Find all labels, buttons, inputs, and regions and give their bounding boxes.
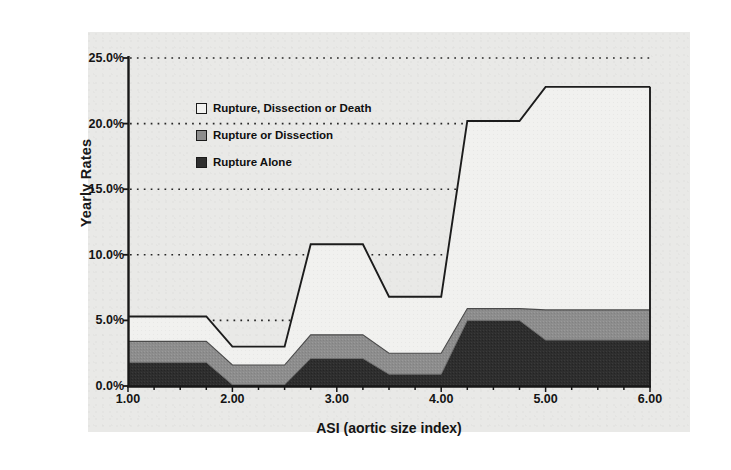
legend-item-rupture-or-dissection[interactable]: Rupture or Dissection (196, 125, 371, 145)
x-tick-label-1: 1.00 (98, 392, 158, 406)
y-tick-label-0: 0.0% (62, 379, 124, 393)
x-tick-label-6: 6.00 (620, 392, 680, 406)
y-tick-label-25: 25.0% (62, 51, 124, 65)
x-tick-label-2: 2.00 (202, 392, 262, 406)
y-tick-label-15: 15.0% (62, 182, 124, 196)
x-tick-label-5: 5.00 (516, 392, 576, 406)
legend-label-rupture-dissection-or-death: Rupture, Dissection or Death (213, 102, 371, 114)
chart-legend: Rupture, Dissection or Death Rupture or … (196, 98, 371, 179)
y-tick-label-10: 10.0% (62, 248, 124, 262)
y-tick-label-20: 20.0% (62, 117, 124, 131)
legend-item-rupture-dissection-or-death[interactable]: Rupture, Dissection or Death (196, 98, 371, 118)
legend-swatch-white-square (196, 103, 207, 114)
legend-swatch-gray-square (196, 130, 207, 141)
x-axis-title: ASI (aortic size index) (128, 420, 650, 436)
x-tick-label-4: 4.00 (411, 392, 471, 406)
x-tick-label-3: 3.00 (307, 392, 367, 406)
legend-swatch-dark-square (196, 157, 207, 168)
y-tick-label-5: 5.0% (62, 313, 124, 327)
legend-label-rupture-or-dissection: Rupture or Dissection (213, 129, 333, 141)
legend-item-rupture-alone[interactable]: Rupture Alone (196, 152, 371, 172)
legend-label-rupture-alone: Rupture Alone (213, 156, 292, 168)
chart-figure: Yearly Rates 25.0% 20.0% 15.0% 10.0% 5.0… (0, 0, 731, 470)
